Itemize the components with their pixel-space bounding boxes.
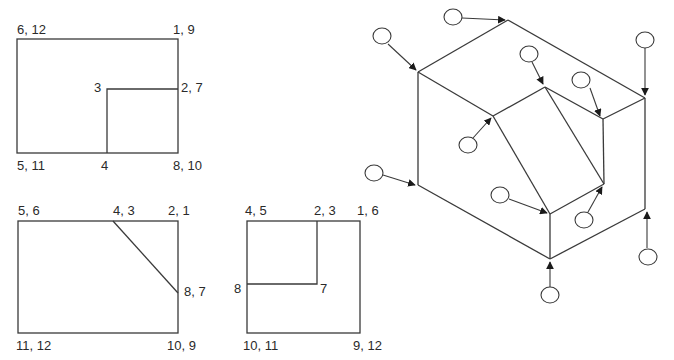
view-b-outline [18, 221, 178, 333]
vertex-marker-8 [491, 187, 547, 213]
circle-marker-icon [365, 165, 383, 181]
view-b-label-top-left: 5, 6 [18, 203, 40, 218]
vertex-marker-11 [639, 212, 657, 265]
circle-marker-icon [520, 46, 538, 62]
view-a-outline [17, 39, 178, 153]
view-c-inner-step [247, 221, 317, 284]
view-a-label-inner-corner: 3 [94, 80, 101, 95]
circle-marker-icon [639, 249, 657, 265]
vertex-marker-6 [459, 118, 491, 153]
view-c-label-top-left: 4, 5 [245, 203, 267, 218]
view-b-label-bottom-left: 11, 12 [16, 338, 51, 353]
view-c-label-bottom-left: 10, 11 [243, 338, 278, 353]
iso-edge [550, 209, 645, 259]
view-b-label-right-mid: 8, 7 [184, 284, 206, 299]
circle-marker-icon [572, 72, 590, 88]
iso-edge [418, 185, 550, 259]
circle-marker-icon [459, 137, 477, 153]
view-a-label-bottom-mid: 4 [101, 158, 108, 173]
iso-edge [418, 72, 493, 116]
iso-edge [418, 20, 508, 72]
view-b-label-top-mid: 4, 3 [113, 203, 135, 218]
view-c-label-bottom-right: 9, 12 [353, 338, 382, 353]
circle-marker-icon [636, 32, 654, 48]
view-b: 5, 6 4, 3 2, 1 8, 7 11, 12 10, 9 [16, 203, 206, 353]
view-a-inner-step [107, 89, 178, 153]
circle-marker-icon [491, 187, 509, 203]
view-a-label-top-right: 1, 9 [173, 22, 195, 37]
iso-edge [603, 98, 645, 119]
view-a-label-bottom-left: 5, 11 [17, 158, 45, 173]
vertex-marker-10 [541, 262, 559, 303]
vertex-marker-5 [636, 32, 654, 95]
vertex-marker-1 [444, 9, 505, 25]
orthographic-views-diagram: 6, 12 1, 9 3 2, 7 5, 11 4 8, 10 5, 6 4, … [0, 0, 674, 360]
view-c-label-left-mid: 8 [234, 281, 241, 296]
view-b-diagonal [113, 221, 178, 293]
vertex-marker-2 [373, 28, 416, 70]
iso-edge [603, 119, 604, 184]
circle-marker-icon [444, 9, 462, 25]
view-b-label-top-right: 2, 1 [168, 203, 190, 218]
iso-edge [545, 87, 603, 119]
view-c: 4, 5 2, 3 1, 6 8 7 10, 11 9, 12 [234, 203, 382, 353]
view-a-label-top-left: 6, 12 [17, 22, 46, 37]
circle-marker-icon [373, 28, 391, 44]
view-a: 6, 12 1, 9 3 2, 7 5, 11 4 8, 10 [17, 22, 203, 173]
view-b-label-bottom-right: 10, 9 [167, 338, 196, 353]
view-c-outline [247, 221, 360, 333]
view-a-label-bottom-right: 8, 10 [173, 158, 202, 173]
iso-edge [493, 87, 545, 116]
circle-marker-icon [575, 212, 593, 228]
isometric-view [365, 9, 657, 303]
view-c-label-inner-corner: 7 [320, 281, 327, 296]
circle-marker-icon [541, 287, 559, 303]
view-c-label-top-mid: 2, 3 [314, 203, 336, 218]
vertex-marker-3 [520, 46, 543, 84]
vertex-marker-7 [365, 165, 415, 185]
view-c-label-top-right: 1, 6 [357, 203, 379, 218]
view-a-label-right-mid: 2, 7 [181, 80, 203, 95]
